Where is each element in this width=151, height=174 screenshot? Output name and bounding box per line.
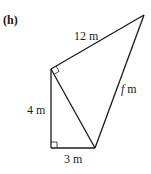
label-3m: 3 m — [64, 152, 83, 166]
label-f: f m — [121, 82, 137, 96]
part-label: (h) — [3, 13, 18, 27]
label-f-unit: m — [124, 82, 137, 96]
inner-diagonal — [51, 69, 95, 148]
label-4m: 4 m — [27, 103, 46, 117]
geometry-diagram: (h) 12 m 4 m 3 m f m — [0, 0, 151, 174]
label-12m: 12 m — [74, 29, 99, 43]
right-angle-marker-bottom — [51, 142, 57, 148]
